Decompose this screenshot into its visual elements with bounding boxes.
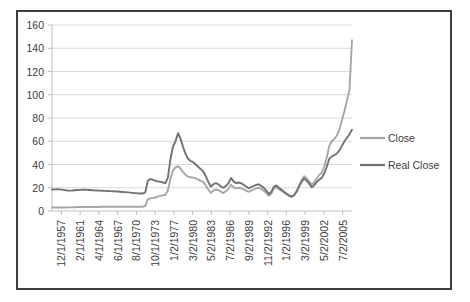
y-tick-label: 40 <box>32 159 44 171</box>
x-tick-label: 2/1/1961 <box>74 220 86 261</box>
y-tick-label: 80 <box>32 112 44 124</box>
y-tick-label: 60 <box>32 135 44 147</box>
x-tick-label: 3/2/1999 <box>299 220 311 261</box>
x-tick-label: 3/2/1980 <box>187 220 199 261</box>
x-tick-label: 9/2/1989 <box>243 220 255 261</box>
x-tick-label: 1/2/1977 <box>168 220 180 261</box>
x-tick-label: 7/2/1986 <box>224 220 236 261</box>
series-lines <box>52 40 352 207</box>
x-tick-label: 8/1/1970 <box>130 220 142 261</box>
x-axis-tick-marks <box>61 211 342 215</box>
y-tick-label: 120 <box>26 66 44 78</box>
y-tick-label: 160 <box>26 19 44 31</box>
line-chart: 020406080100120140160 12/1/19572/1/19614… <box>0 0 466 300</box>
x-tick-label: 5/2/2002 <box>318 220 330 261</box>
y-tick-label: 20 <box>32 182 44 194</box>
series-line-real-close <box>52 130 352 197</box>
x-tick-label: 4/1/1964 <box>93 220 105 261</box>
x-tick-label: 7/2/2005 <box>337 220 349 261</box>
x-tick-label: 6/1/1967 <box>112 220 124 261</box>
x-axis-tick-labels: 12/1/19572/1/19614/1/19646/1/19678/1/197… <box>55 220 348 267</box>
chart-legend: CloseReal Close <box>360 132 440 171</box>
y-tick-label: 0 <box>38 205 44 217</box>
x-tick-label: 1/2/1996 <box>280 220 292 261</box>
y-tick-label: 140 <box>26 42 44 54</box>
x-tick-label: 11/2/1992 <box>262 220 274 266</box>
y-tick-label: 100 <box>26 89 44 101</box>
x-tick-label: 10/1/1973 <box>149 220 161 267</box>
x-tick-label: 12/1/1957 <box>55 220 67 267</box>
legend-label-real-close: Real Close <box>388 159 440 171</box>
x-tick-label: 5/2/1983 <box>205 220 217 261</box>
legend-label-close: Close <box>388 132 415 144</box>
gridlines <box>48 25 352 211</box>
y-axis-tick-labels: 020406080100120140160 <box>26 19 44 217</box>
